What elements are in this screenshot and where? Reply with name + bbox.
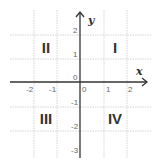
quadrant-4-label: IV [108,110,122,127]
x-tick-neg2: -2 [26,85,34,94]
quadrant-3-label: III [40,110,53,127]
quadrant-2-label: II [42,39,50,56]
x-tick-0: 0 [82,85,87,94]
coordinate-plane: y x -2 -1 0 1 2 2 1 0 -1 -2 -3 II I III … [0,0,156,164]
x-tick-neg1: -1 [49,85,57,94]
x-axis-label: x [135,65,143,78]
quadrant-1-label: I [113,39,117,56]
y-axis-label: y [87,14,96,27]
grid-lines [10,10,152,158]
y-tick-neg2: -2 [71,122,79,131]
y-tick-0: 0 [73,73,78,82]
y-tick-neg3: -3 [71,146,79,155]
x-tick-1: 1 [106,85,111,94]
y-tick-neg1: -1 [71,98,79,107]
y-tick-1: 1 [73,50,78,59]
x-tick-2: 2 [128,85,133,94]
y-tick-2: 2 [73,26,78,35]
coordinate-plane-svg: y x -2 -1 0 1 2 2 1 0 -1 -2 -3 II I III … [0,0,156,164]
